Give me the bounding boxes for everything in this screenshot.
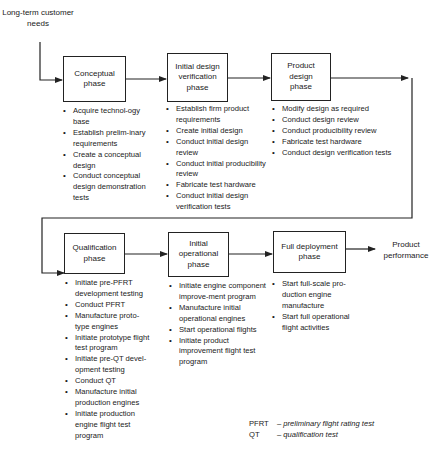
activity-item: Initiate prototype flight test program: [65, 333, 151, 355]
activity-item: Conduct initial design verification test…: [166, 191, 280, 213]
activity-item: Conduct design verification tests: [272, 148, 404, 159]
phase-title: Qualification phase: [68, 243, 122, 264]
activity-item: Fabricate test hardware: [272, 137, 412, 148]
activity-item: Start operational flights: [169, 325, 275, 336]
legend-entry: PFRT– preliminary flight rating test: [249, 419, 439, 430]
activity-item: Initiate product improvement flight test…: [169, 336, 265, 369]
activity-item: Establish prelim-inary requirements: [63, 128, 153, 150]
activity-item: Initiate engine component improve-ment p…: [169, 281, 269, 303]
legend-abbr: QT: [249, 430, 277, 441]
activity-item: Initiate production engine flight test p…: [65, 409, 153, 442]
activity-item: Fabricate test hardware: [166, 180, 278, 191]
activity-item: Initiate pre-PFRT development testing: [65, 278, 151, 300]
activity-item: Conduct QT: [65, 376, 151, 387]
activity-list-conceptual: Acquire technol-ogy base Establish preli…: [63, 106, 153, 204]
activity-item: Modify design as required: [272, 104, 412, 115]
activity-item: Create initial design: [166, 126, 278, 137]
activity-list-qualification: Initiate pre-PFRT development testing Co…: [65, 278, 151, 442]
activity-item: Conduct design review: [272, 115, 412, 126]
activity-item: Create a conceptual design: [63, 150, 153, 172]
output-label: Product performance: [380, 240, 432, 261]
activity-item: Conduct initial design review: [166, 137, 250, 159]
legend-definition: – qualification test: [277, 430, 338, 439]
phase-title: Product design phase: [283, 61, 319, 93]
phase-title: Initial design verification phase: [172, 62, 224, 94]
activity-item: Start full-scale pro-duction engine manu…: [272, 279, 364, 312]
legend-definition: – preliminary flight rating test: [277, 419, 374, 428]
activity-item: Manufacture proto-type engines: [65, 311, 151, 333]
phase-title: Initial operational phase: [174, 239, 224, 271]
activity-item: Establish firm product requirements: [166, 104, 278, 126]
activity-list-initial-operational: Initiate engine component improve-ment p…: [169, 281, 275, 368]
arrow-input: [40, 42, 62, 80]
activity-item: Initiate pre-QT devel-opment testing: [65, 354, 151, 376]
activity-item: Conduct conceptual design demonstration …: [63, 171, 153, 204]
activity-item: Manufacture initial production engines: [65, 387, 151, 409]
phase-box-product-design: Product design phase: [271, 53, 331, 101]
activity-item: Conduct PFRT: [65, 300, 151, 311]
legend-abbr: PFRT: [249, 419, 277, 430]
phase-box-initial-operational: Initial operational phase: [168, 232, 229, 277]
phase-title: Full deployment phase: [277, 242, 343, 263]
activity-list-initial-design-verification: Establish firm product requirements Crea…: [166, 104, 278, 213]
activity-item: Conduct initial producibility review: [166, 159, 272, 181]
activity-item: Start full operational flight activities: [272, 312, 364, 334]
activity-list-product-design: Modify design as required Conduct design…: [272, 104, 412, 159]
phase-box-qualification: Qualification phase: [64, 233, 125, 274]
input-label: Long-term customer needs: [0, 8, 76, 29]
activity-item: Conduct producibility review: [272, 126, 412, 137]
activity-list-full-deployment: Start full-scale pro-duction engine manu…: [272, 279, 364, 334]
legend-entry: QT– qualification test: [249, 430, 439, 441]
activity-item: Manufacture initial operational engines: [169, 303, 269, 325]
phase-box-full-deployment: Full deployment phase: [273, 231, 346, 273]
phase-title: Conceptual phase: [72, 69, 118, 90]
legend: PFRT– preliminary flight rating test QT–…: [249, 419, 439, 440]
phase-box-initial-design-verification: Initial design verification phase: [167, 53, 228, 102]
activity-item: Acquire technol-ogy base: [63, 106, 153, 128]
phase-box-conceptual: Conceptual phase: [63, 56, 126, 102]
